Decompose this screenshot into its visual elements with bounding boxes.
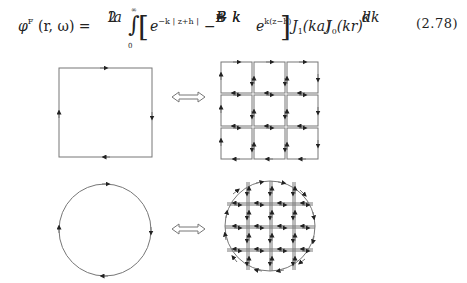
square-loop	[59, 68, 152, 157]
double-arrow-icon	[172, 92, 205, 102]
loop-decomposition-figure	[0, 0, 467, 283]
circular-grid	[225, 181, 315, 271]
square-grid-3x3	[221, 62, 318, 159]
circle-loop	[59, 184, 151, 276]
double-arrow-icon	[172, 224, 205, 234]
